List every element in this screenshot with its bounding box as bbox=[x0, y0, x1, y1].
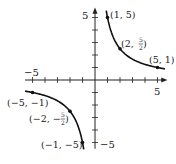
x-axis-arrow bbox=[161, 78, 167, 83]
function-graph: −5 5 5 −5 (1, 5) (2, 5 2 ) (5, 1) (−5, −… bbox=[0, 0, 176, 164]
point-label-neg2-close: ) bbox=[65, 113, 69, 124]
point-label-neg1-neg5: (−1, −5) bbox=[41, 139, 82, 150]
x-axis-label-neg5: −5 bbox=[24, 67, 39, 78]
y-axis-label-neg5: −5 bbox=[100, 139, 115, 150]
point-label-2-close: ) bbox=[143, 38, 147, 49]
x-axis-label-5: 5 bbox=[154, 86, 160, 97]
point-label-neg2-neg5-2: (−2, − 5 2 ) bbox=[29, 111, 69, 126]
point-label-1-5: (1, 5) bbox=[110, 9, 136, 20]
data-point bbox=[156, 66, 160, 70]
data-point bbox=[106, 16, 110, 20]
point-label-neg2-main: (−2, − bbox=[29, 113, 61, 124]
data-point bbox=[31, 91, 35, 95]
y-axis-arrow bbox=[93, 8, 98, 14]
point-label-5-1: (5, 1) bbox=[149, 54, 175, 65]
point-label-2-main: (2, bbox=[121, 38, 134, 49]
axes bbox=[25, 8, 168, 149]
point-label-neg5-neg1: (−5, −1) bbox=[7, 97, 48, 108]
y-axis-label-5: 5 bbox=[82, 10, 88, 21]
point-label-2-5-2: (2, 5 2 ) bbox=[121, 36, 147, 51]
data-point bbox=[68, 109, 72, 113]
